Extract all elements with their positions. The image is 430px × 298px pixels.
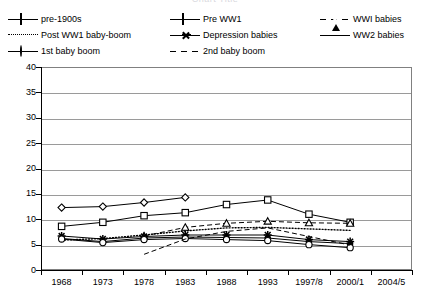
x-axis-tick-label: 1978 bbox=[134, 278, 154, 287]
x-axis-tick-mark bbox=[371, 270, 372, 275]
series-layer bbox=[0, 0, 430, 298]
y-axis-tick-label: 10 bbox=[10, 215, 36, 224]
x-axis-tick-label: 1997/8 bbox=[295, 278, 323, 287]
y-axis-tick-label: 25 bbox=[10, 139, 36, 148]
x-axis-tick-label: 2000/1 bbox=[336, 278, 364, 287]
y-axis-tick-label: 40 bbox=[10, 63, 36, 72]
x-axis-tick-label: 1968 bbox=[52, 278, 72, 287]
x-axis-tick-label: 1973 bbox=[93, 278, 113, 287]
x-axis-tick-mark bbox=[288, 270, 289, 275]
x-axis-tick-label: 1993 bbox=[258, 278, 278, 287]
y-axis-tick-label: 5 bbox=[10, 240, 36, 249]
y-axis-tick-mark bbox=[36, 245, 41, 246]
x-axis-tick-label: 2004/5 bbox=[378, 278, 406, 287]
y-axis-tick-label: 30 bbox=[10, 113, 36, 122]
y-axis-tick-mark bbox=[36, 194, 41, 195]
y-axis-tick-label: 0 bbox=[10, 266, 36, 275]
x-axis-tick-mark bbox=[206, 270, 207, 275]
x-axis-tick-mark bbox=[123, 270, 124, 275]
x-axis-tick-label: 1983 bbox=[175, 278, 195, 287]
y-axis-tick-mark bbox=[36, 92, 41, 93]
x-axis-tick-mark bbox=[330, 270, 331, 275]
x-axis-tick-label: 1988 bbox=[216, 278, 236, 287]
y-axis-tick-label: 15 bbox=[10, 189, 36, 198]
x-axis-tick-mark bbox=[247, 270, 248, 275]
y-axis-tick-label: 35 bbox=[10, 88, 36, 97]
x-axis-tick-mark bbox=[165, 270, 166, 275]
x-axis-tick-mark bbox=[41, 270, 42, 275]
y-axis-tick-mark bbox=[36, 169, 41, 170]
x-axis-tick-mark bbox=[82, 270, 83, 275]
y-axis-tick-mark bbox=[36, 143, 41, 144]
y-axis-tick-mark bbox=[36, 219, 41, 220]
y-axis-tick-label: 20 bbox=[10, 164, 36, 173]
x-axis-tick-mark bbox=[412, 270, 413, 275]
y-axis-tick-mark bbox=[36, 67, 41, 68]
series-pre-1900s bbox=[58, 194, 189, 211]
chart-container: Chart Title pre-1900sPre WW1WWI babiesPo… bbox=[0, 0, 430, 298]
y-axis-tick-mark bbox=[36, 118, 41, 119]
